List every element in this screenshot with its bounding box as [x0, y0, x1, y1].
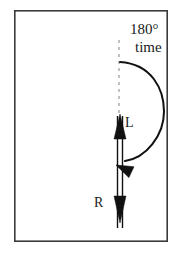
vector-label-R: R — [94, 196, 103, 210]
time-label: time — [135, 40, 162, 55]
figure-container: 180° time L R — [0, 0, 182, 254]
angle-label: 180° — [130, 22, 159, 37]
vector-label-L: L — [125, 116, 134, 130]
